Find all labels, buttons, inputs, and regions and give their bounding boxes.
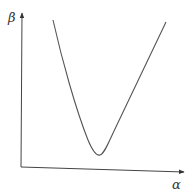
y-axis <box>21 13 22 167</box>
beta-alpha-curve <box>53 20 166 155</box>
x-axis-label: α <box>172 177 181 192</box>
x-axis <box>21 167 184 172</box>
y-axis-label: β <box>7 10 16 25</box>
diagram-canvas: β α <box>0 0 194 194</box>
